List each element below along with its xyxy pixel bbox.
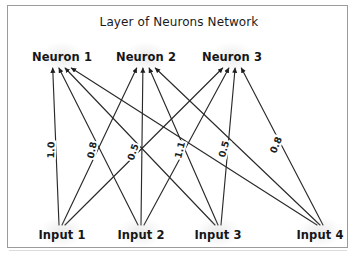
node-label-input-2: Input 2 — [117, 228, 164, 242]
node-label-input-3: Input 3 — [194, 228, 241, 242]
diagram-page: Layer of Neurons Network Neuron 1 Neuron… — [0, 0, 358, 273]
node-label-neuron-2: Neuron 2 — [116, 50, 176, 64]
network-edge — [144, 68, 229, 225]
node-label-input-1: Input 1 — [38, 228, 85, 242]
network-edge — [59, 68, 138, 225]
network-edge — [241, 68, 323, 225]
node-label-input-4: Input 4 — [296, 228, 343, 242]
node-label-neuron-1: Neuron 1 — [32, 50, 92, 64]
edge-weight-label: 1.0 — [46, 140, 56, 159]
network-edge — [141, 68, 143, 225]
node-label-neuron-3: Neuron 3 — [202, 50, 262, 64]
